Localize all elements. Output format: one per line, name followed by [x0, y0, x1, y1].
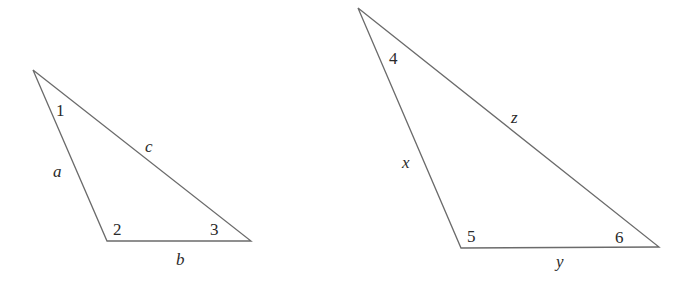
angle-label-5: 5 [467, 227, 476, 246]
triangle-left: 1 2 3 a c b [33, 70, 251, 269]
side-label-a: a [53, 162, 62, 181]
angle-label-2: 2 [113, 220, 122, 239]
side-label-x: x [401, 153, 410, 172]
triangle-left-outline [33, 70, 251, 241]
side-label-z: z [510, 108, 518, 127]
angle-label-4: 4 [389, 49, 398, 68]
side-label-c: c [145, 137, 153, 156]
side-label-b: b [176, 250, 185, 269]
angle-label-1: 1 [56, 101, 65, 120]
triangle-right-outline [358, 8, 659, 248]
two-triangles-diagram: 1 2 3 a c b 4 5 6 x z y [0, 0, 689, 292]
angle-label-6: 6 [615, 228, 624, 247]
triangle-right: 4 5 6 x z y [358, 8, 659, 271]
side-label-y: y [554, 252, 564, 271]
angle-label-3: 3 [210, 220, 219, 239]
